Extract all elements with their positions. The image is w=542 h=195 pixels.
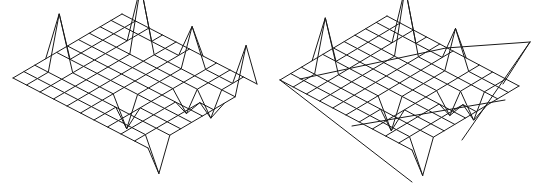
mesh-line (46, 14, 181, 129)
wireframe-figure (0, 0, 542, 195)
mesh-line (148, 45, 257, 173)
connector-line (462, 42, 530, 140)
connector-line (280, 80, 412, 182)
wireframe-plot-canvas (0, 0, 542, 195)
mesh-line (111, 20, 246, 83)
mesh-line (291, 74, 423, 176)
connector-line (300, 48, 446, 79)
right-wireframe-surface (280, 0, 530, 182)
connector-line (446, 42, 530, 48)
connector-line (503, 42, 530, 84)
mesh-line (24, 72, 159, 174)
mesh-line (355, 35, 487, 120)
left-wireframe-surface (13, 0, 257, 174)
mesh-line (89, 33, 224, 118)
mesh-line (412, 86, 519, 176)
